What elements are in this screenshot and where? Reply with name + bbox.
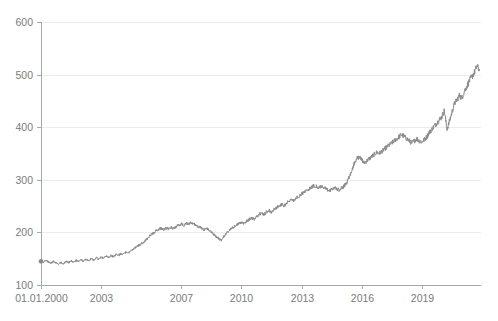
- gridlines: [41, 23, 481, 286]
- x-tick-label: 01.01.2000: [15, 292, 68, 304]
- y-axis: 100200300400500600: [15, 16, 41, 291]
- line-chart: 100200300400500600 01.01.200020032007201…: [0, 0, 498, 321]
- y-tick-label: 200: [15, 226, 33, 238]
- series-line: [41, 64, 479, 264]
- y-tick-label: 400: [15, 121, 33, 133]
- x-tick-label: 2013: [291, 292, 315, 304]
- x-tick-label: 2003: [90, 292, 114, 304]
- chart-canvas: 100200300400500600 01.01.200020032007201…: [0, 0, 498, 321]
- y-tick-label: 300: [15, 174, 33, 186]
- y-tick-label: 600: [15, 16, 33, 28]
- x-axis: 01.01.2000200320072010201320162019: [15, 285, 481, 304]
- x-tick-label: 2019: [411, 292, 435, 304]
- series-start-marker: [39, 259, 44, 264]
- y-tick-label: 100: [15, 279, 33, 291]
- x-tick-label: 2016: [351, 292, 375, 304]
- y-tick-label: 500: [15, 69, 33, 81]
- data-series: [39, 64, 480, 264]
- x-tick-label: 2010: [230, 292, 254, 304]
- x-tick-label: 2007: [170, 292, 194, 304]
